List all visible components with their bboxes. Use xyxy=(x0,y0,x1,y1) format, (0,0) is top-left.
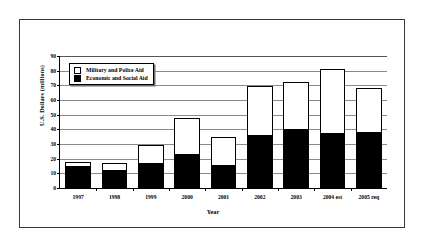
y-tick-label-90: 90 xyxy=(50,53,56,59)
bar-segment-military-and-police-aid xyxy=(283,82,308,130)
bar-group xyxy=(174,118,199,188)
bar-group xyxy=(138,145,163,188)
y-tick-label-70: 70 xyxy=(50,82,56,88)
bar-segment-military-and-police-aid xyxy=(174,118,199,154)
x-tick-label-2001: 2001 xyxy=(218,194,229,200)
y-tick-label-50: 50 xyxy=(50,112,56,118)
bar-segment-economic-and-social-aid xyxy=(65,166,90,188)
y-tick-mark-0 xyxy=(57,188,60,189)
bar-group xyxy=(247,86,272,188)
legend-item-military: Military and Police Aid xyxy=(74,66,148,74)
x-tick-label-1998: 1998 xyxy=(109,194,120,200)
bar-segment-economic-and-social-aid xyxy=(102,170,127,188)
x-tick-label-2003: 2003 xyxy=(291,194,302,200)
bar-segment-military-and-police-aid xyxy=(211,137,236,164)
x-tick-mark xyxy=(133,188,134,191)
bar-segment-economic-and-social-aid xyxy=(174,154,199,188)
y-tick-label-0: 0 xyxy=(53,185,56,191)
figure-root: U.S. Dollars (millions) 0102030405060708… xyxy=(0,0,424,244)
bar-segment-economic-and-social-aid xyxy=(320,133,345,188)
x-tick-mark xyxy=(205,188,206,191)
x-tick-mark xyxy=(96,188,97,191)
y-tick-label-10: 10 xyxy=(50,170,56,176)
x-tick-mark xyxy=(169,188,170,191)
bar-segment-military-and-police-aid xyxy=(138,145,163,163)
legend-label-military: Military and Police Aid xyxy=(86,67,144,73)
bar-group xyxy=(320,69,345,188)
bar-group xyxy=(356,88,381,188)
bar-group xyxy=(283,82,308,188)
legend-swatch-hollow-square-icon xyxy=(74,67,81,74)
legend-label-economic: Economic and Social Aid xyxy=(86,75,148,81)
y-tick-label-40: 40 xyxy=(50,126,56,132)
y-tick-label-20: 20 xyxy=(50,156,56,162)
bar-segment-economic-and-social-aid xyxy=(247,135,272,188)
bar-segment-military-and-police-aid xyxy=(247,86,272,135)
x-axis-title: Year xyxy=(20,208,406,215)
bar-segment-economic-and-social-aid xyxy=(211,165,236,188)
figure-border-frame: U.S. Dollars (millions) 0102030405060708… xyxy=(19,19,405,228)
y-axis-title: U.S. Dollars (millions) xyxy=(38,41,45,151)
y-tick-label-30: 30 xyxy=(50,141,56,147)
x-tick-label-1997: 1997 xyxy=(73,194,84,200)
bar-segment-military-and-police-aid xyxy=(320,69,345,133)
bar-group xyxy=(211,137,236,188)
bar-group xyxy=(65,162,90,188)
bar-segment-economic-and-social-aid xyxy=(138,163,163,188)
bar-segment-economic-and-social-aid xyxy=(283,129,308,188)
chart-canvas: U.S. Dollars (millions) 0102030405060708… xyxy=(20,20,406,229)
x-tick-label-2005-req: 2005 req xyxy=(359,194,380,200)
y-tick-label-60: 60 xyxy=(50,97,56,103)
bar-segment-military-and-police-aid xyxy=(102,163,127,170)
x-tick-label-1999: 1999 xyxy=(145,194,156,200)
y-tick-label-80: 80 xyxy=(50,68,56,74)
legend-item-economic: Economic and Social Aid xyxy=(74,74,148,82)
x-tick-mark xyxy=(314,188,315,191)
x-tick-mark xyxy=(278,188,279,191)
x-tick-label-2004-est: 2004 est xyxy=(323,194,342,200)
x-tick-label-2000: 2000 xyxy=(182,194,193,200)
chart-legend: Military and Police Aid Economic and Soc… xyxy=(69,63,154,85)
bar-segment-military-and-police-aid xyxy=(356,88,381,132)
x-tick-label-2002: 2002 xyxy=(254,194,265,200)
bar-segment-economic-and-social-aid xyxy=(356,132,381,188)
x-tick-mark xyxy=(351,188,352,191)
x-tick-mark xyxy=(242,188,243,191)
legend-swatch-filled-square-icon xyxy=(74,75,81,82)
bar-group xyxy=(102,163,127,188)
